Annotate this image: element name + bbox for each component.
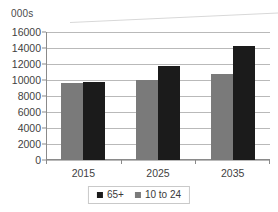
y-tick-label: 10000 — [12, 74, 41, 86]
bar-older — [83, 82, 105, 160]
y-axis-title: 000s — [11, 8, 34, 19]
gridline — [46, 160, 270, 161]
bar-young — [61, 83, 83, 160]
bar-young — [136, 80, 158, 160]
legend-swatch-older — [97, 192, 103, 198]
y-tick-mark — [42, 128, 46, 129]
legend-label-young: 10 to 24 — [145, 189, 181, 200]
x-tick-mark — [269, 160, 270, 164]
y-tick-label: 8000 — [18, 90, 41, 102]
legend-label-older: 65+ — [107, 189, 124, 200]
y-tick-mark — [42, 32, 46, 33]
y-tick-label: 6000 — [18, 106, 41, 118]
plot-frame: 1600014000120001000080006000400020000 20… — [46, 32, 270, 160]
y-axis-line — [46, 32, 47, 160]
y-tick-mark — [42, 64, 46, 65]
scan-artifact-line — [70, 10, 278, 24]
y-tick-mark — [42, 144, 46, 145]
bar-group: 2035 — [211, 32, 255, 160]
y-tick-mark — [42, 112, 46, 113]
legend-swatch-young — [135, 192, 141, 198]
x-tick-mark — [121, 160, 122, 164]
x-tick-label: 2035 — [221, 167, 244, 179]
bar-young — [211, 74, 233, 160]
legend-item-older: 65+ — [97, 189, 124, 200]
bar-chart: 000s 16000140001200010000800060004000200… — [0, 0, 278, 212]
chart-legend: 65+ 10 to 24 — [88, 186, 190, 204]
bar-group: 2015 — [61, 32, 105, 160]
x-tick-mark — [195, 160, 196, 164]
y-tick-label: 0 — [35, 154, 41, 166]
bar-group: 2025 — [136, 32, 180, 160]
bar-older — [233, 46, 255, 160]
y-tick-label: 4000 — [18, 122, 41, 134]
plot-area: 1600014000120001000080006000400020000 20… — [46, 32, 270, 160]
y-tick-label: 16000 — [12, 26, 41, 38]
y-tick-mark — [42, 96, 46, 97]
y-tick-mark — [42, 48, 46, 49]
x-tick-mark — [46, 160, 47, 164]
y-tick-mark — [42, 80, 46, 81]
x-tick-label: 2025 — [146, 167, 169, 179]
x-tick-label: 2015 — [72, 167, 95, 179]
legend-item-young: 10 to 24 — [135, 189, 181, 200]
y-tick-label: 2000 — [18, 138, 41, 150]
bar-older — [158, 66, 180, 160]
y-tick-label: 12000 — [12, 58, 41, 70]
y-tick-label: 14000 — [12, 42, 41, 54]
